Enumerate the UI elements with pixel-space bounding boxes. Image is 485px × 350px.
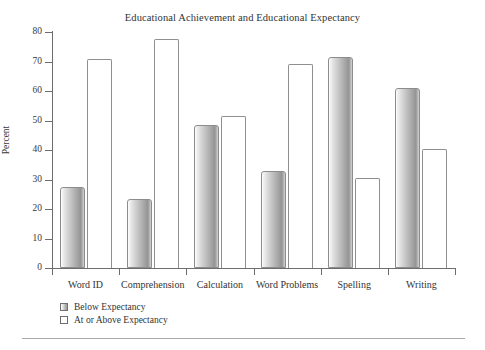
y-axis-tick	[45, 209, 52, 210]
y-axis-tick-label: 20	[2, 203, 42, 213]
y-axis-tick	[45, 268, 52, 269]
chart-figure: Educational Achievement and Educational …	[0, 0, 485, 350]
bar-word-problems-at-or-above-expectancy	[288, 64, 313, 268]
y-axis-tick-label: 40	[2, 144, 42, 154]
y-axis-tick	[45, 121, 52, 122]
legend-swatch-icon	[60, 316, 68, 324]
x-axis-category-label: Word ID	[52, 279, 119, 290]
y-axis-tick	[45, 91, 52, 92]
bar-calculation-below-expectancy	[194, 125, 219, 268]
bar-word-problems-below-expectancy	[261, 171, 286, 268]
bar-word-id-below-expectancy	[60, 187, 85, 268]
legend-item: Below Expectancy	[60, 300, 168, 313]
y-axis-tick-label: 50	[2, 115, 42, 125]
y-axis-tick	[45, 150, 52, 151]
page-bottom-rule	[22, 338, 465, 339]
bar-comprehension-at-or-above-expectancy	[154, 39, 179, 268]
y-axis-tick-label: 60	[2, 85, 42, 95]
y-axis-tick-label: 80	[2, 26, 42, 36]
x-axis-tick	[254, 268, 255, 275]
bar-spelling-below-expectancy	[328, 57, 353, 268]
y-axis-tick-label: 30	[2, 174, 42, 184]
y-axis-tick-label: 70	[2, 56, 42, 66]
legend-item-label: Below Expectancy	[74, 302, 146, 312]
bar-word-id-at-or-above-expectancy	[87, 59, 112, 268]
bar-comprehension-below-expectancy	[127, 199, 152, 268]
bar-writing-at-or-above-expectancy	[422, 149, 447, 268]
x-axis-category-label: Spelling	[321, 279, 388, 290]
legend-item: At or Above Expectancy	[60, 313, 168, 326]
chart-title: Educational Achievement and Educational …	[0, 12, 485, 23]
legend-swatch-icon	[60, 303, 68, 311]
chart-legend: Below ExpectancyAt or Above Expectancy	[60, 300, 168, 326]
y-axis-tick	[45, 239, 52, 240]
legend-item-label: At or Above Expectancy	[74, 315, 168, 325]
y-axis-tick	[45, 32, 52, 33]
x-axis-category-label: Writing	[388, 279, 455, 290]
plot-area	[52, 32, 455, 268]
x-axis-tick	[321, 268, 322, 275]
x-axis-category-label: Calculation	[186, 279, 253, 290]
y-axis-tick-label: 0	[2, 262, 42, 272]
bar-spelling-at-or-above-expectancy	[355, 178, 380, 268]
x-axis-category-label: Word Problems	[254, 279, 321, 290]
x-axis-tick	[388, 268, 389, 275]
bar-writing-below-expectancy	[395, 88, 420, 268]
x-axis-tick	[119, 268, 120, 275]
x-axis-tick	[186, 268, 187, 275]
y-axis-tick	[45, 180, 52, 181]
x-axis-tick	[455, 268, 456, 275]
x-axis-category-label: Comprehension	[119, 279, 186, 290]
x-axis-tick	[52, 268, 53, 275]
bar-calculation-at-or-above-expectancy	[221, 116, 246, 268]
y-axis-tick-label: 10	[2, 233, 42, 243]
y-axis-tick	[45, 62, 52, 63]
